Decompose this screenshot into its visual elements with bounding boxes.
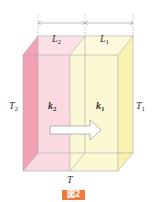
label-T-interface: T	[67, 174, 74, 185]
composite-wall-diagram: L2 L1 T2 T1 T k2 k1	[0, 0, 152, 202]
layer-1-block	[70, 36, 133, 171]
figure-caption: 図2	[62, 190, 85, 200]
label-T2: T2	[9, 100, 19, 113]
label-T1: T1	[136, 100, 146, 113]
